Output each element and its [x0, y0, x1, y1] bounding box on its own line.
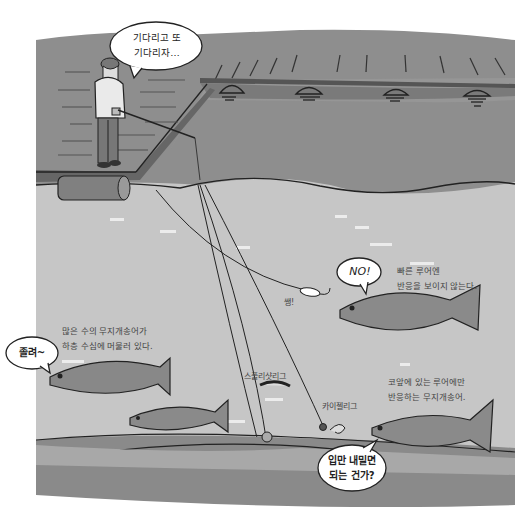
caption-many-trout: 많은 수의 무지개송어가 하층 수심에 머물러 있다.	[62, 324, 153, 354]
caption-many-trout-line1: 많은 수의 무지개송어가	[62, 324, 153, 339]
split-shot-rig-label: 스플리샷리그	[244, 370, 286, 381]
angler-speech-text: 기다리고 또 기다리자…	[119, 30, 195, 60]
angler-speech-line1: 기다리고 또	[119, 30, 195, 45]
swish-sound-label: 쌩!	[284, 296, 294, 307]
mouth-speech-line1: 입만 내밀면	[318, 453, 386, 468]
caption-nose-lure-line2: 반응하는 무지개송어.	[388, 390, 465, 405]
no-speech-text: NO!	[342, 264, 378, 279]
fishing-illustration	[0, 0, 531, 516]
caption-nose-lure-line1: 코앞에 있는 루어에만	[388, 375, 465, 390]
mouth-speech-text: 입만 내밀면 되는 건가?	[318, 453, 386, 483]
caption-fast-lure-line1: 빠른 루어엔	[397, 264, 477, 279]
caption-nose-lure: 코앞에 있는 루어에만 반응하는 무지개송어.	[388, 375, 465, 405]
carolina-rig-label: 카이젤리그	[322, 400, 357, 411]
sleepy-speech-text: 졸려~	[10, 345, 54, 360]
caption-fast-lure: 빠른 루어엔 반응을 보이지 않는다.	[397, 264, 477, 294]
mouth-speech-line2: 되는 건가?	[318, 468, 386, 483]
angler-speech-line2: 기다리자…	[119, 45, 195, 60]
caption-fast-lure-line2: 반응을 보이지 않는다.	[397, 279, 477, 294]
caption-many-trout-line2: 하층 수심에 머물러 있다.	[62, 339, 153, 354]
